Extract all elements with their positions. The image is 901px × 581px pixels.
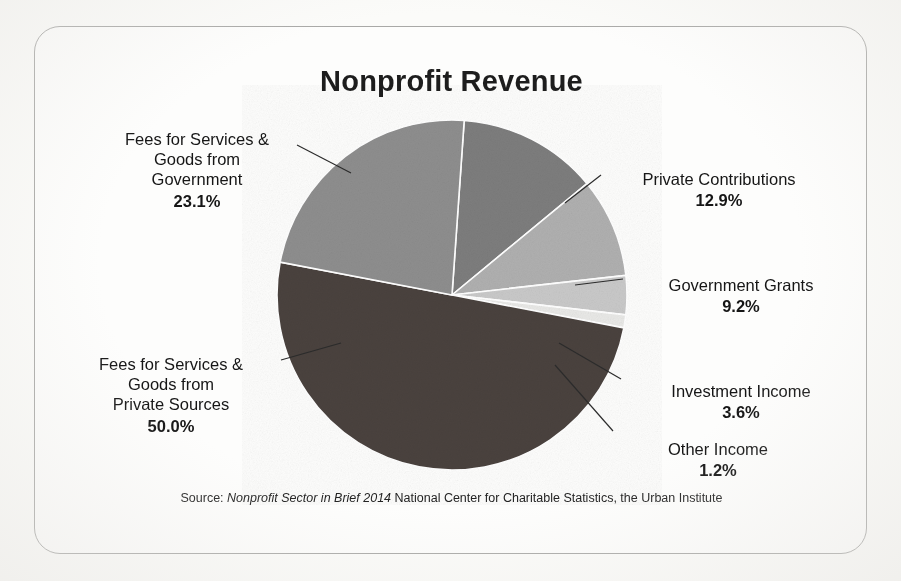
- slice-label-private-contributions-percent: 12.9%: [603, 190, 835, 210]
- slice-label-private-contributions: Private Contributions 12.9%: [603, 149, 835, 231]
- slice-label-private-contributions-text: Private Contributions: [642, 170, 795, 188]
- slice-label-private-fees-text: Fees for Services & Goods from Private S…: [99, 355, 243, 413]
- slice-label-other-income-percent: 1.2%: [609, 460, 827, 480]
- slice-label-gov-fees-text: Fees for Services & Goods from Governmen…: [125, 130, 269, 188]
- source-publication: Nonprofit Sector in Brief 2014: [227, 491, 391, 505]
- scanned-page: Nonprofit Revenue: [0, 0, 901, 581]
- slice-label-government-grants: Government Grants 9.2%: [627, 255, 855, 337]
- chart-title: Nonprofit Revenue: [35, 65, 868, 98]
- chart-card: Nonprofit Revenue: [34, 26, 867, 554]
- source-note: Source: Nonprofit Sector in Brief 2014 N…: [35, 491, 868, 505]
- slice-label-government-grants-text: Government Grants: [669, 276, 814, 294]
- slice-label-government-grants-percent: 9.2%: [627, 296, 855, 316]
- scan-grain-overlay: [277, 120, 627, 470]
- slice-label-investment-income-text: Investment Income: [671, 382, 810, 400]
- slice-label-other-income-text: Other Income: [668, 440, 768, 458]
- slice-label-gov-fees: Fees for Services & Goods from Governmen…: [91, 109, 303, 231]
- source-suffix: National Center for Charitable Statistic…: [395, 491, 723, 505]
- slice-label-other-income: Other Income 1.2%: [609, 419, 827, 501]
- slice-label-private-fees: Fees for Services & Goods from Private S…: [57, 334, 285, 456]
- slice-label-private-fees-percent: 50.0%: [57, 416, 285, 436]
- source-prefix: Source:: [181, 491, 224, 505]
- slice-label-gov-fees-percent: 23.1%: [91, 191, 303, 211]
